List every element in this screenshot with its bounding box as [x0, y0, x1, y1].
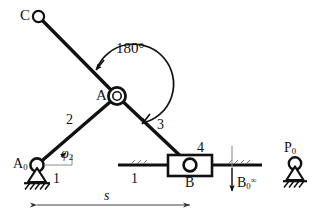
- label-point-a0-sub: 0: [23, 162, 27, 172]
- joint-c: [33, 11, 44, 22]
- link-2-crank: [37, 96, 117, 165]
- label-point-b0-sup: ∞: [251, 176, 257, 185]
- fixed-pivot-a0: [24, 158, 50, 189]
- label-link-2: 2: [66, 113, 73, 127]
- fixed-pivot-p0: [283, 157, 307, 187]
- label-angle-phi2-sub: 2: [69, 152, 73, 162]
- label-point-a0: A0: [13, 157, 27, 172]
- label-point-b: B: [185, 176, 194, 190]
- label-angle-phi2: φ2: [61, 147, 73, 162]
- label-angle-180: 180°: [116, 41, 145, 56]
- label-link-1-right: 1: [131, 172, 138, 186]
- label-point-c: C: [20, 8, 30, 23]
- kinematic-diagram: C A A0 B B0∞ P0 180° φ2 1 1 2 3 4 s: [0, 0, 316, 216]
- label-dimension-s: s: [104, 189, 109, 203]
- label-link-1-left: 1: [53, 172, 60, 186]
- label-point-p0: P0: [284, 141, 296, 156]
- link-ca-coupler-extension: [40, 18, 117, 96]
- label-point-a: A: [96, 88, 107, 103]
- label-point-p0-base: P: [284, 140, 292, 155]
- label-angle-phi2-base: φ: [61, 146, 69, 161]
- label-point-a0-base: A: [13, 156, 23, 171]
- label-point-b0: B0∞: [237, 176, 256, 191]
- diagram-canvas: [0, 0, 316, 216]
- label-point-p0-sub: 0: [292, 146, 296, 156]
- joint-a: [108, 87, 125, 104]
- label-link-3: 3: [157, 118, 164, 132]
- label-point-b0-base: B: [237, 175, 246, 190]
- slider-block-4: [168, 155, 212, 176]
- label-link-4: 4: [197, 141, 204, 155]
